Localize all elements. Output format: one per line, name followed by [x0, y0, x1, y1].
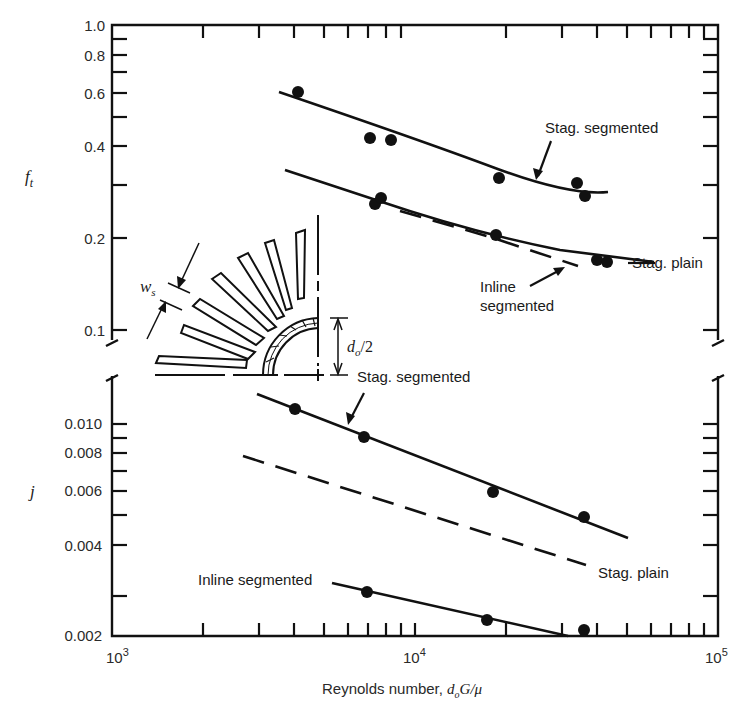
label-do-half: do/2 — [347, 338, 373, 358]
bottom-x-ticks — [203, 623, 704, 636]
label-upper-stag-segmented: Stag. segmented — [545, 119, 658, 136]
top-x-ticks — [203, 25, 704, 38]
y-tick-0.006: 0.006 — [64, 482, 102, 499]
lower-y-ticks-right — [703, 424, 718, 596]
svg-text:ft: ft — [25, 167, 34, 190]
label-lower-stag-plain: Stag. plain — [598, 564, 669, 581]
y-tick-0.6: 0.6 — [84, 85, 105, 102]
y-tick-0.2: 0.2 — [84, 230, 105, 247]
upper-y-ticks-left — [112, 39, 127, 330]
upper-panel-frame — [106, 25, 724, 346]
y-tick-0.002: 0.002 — [64, 627, 102, 644]
x-tick-1e5: 105 — [705, 646, 728, 666]
y-tick-0.004: 0.004 — [64, 537, 102, 554]
x-tick-labels: 103 104 105 — [106, 646, 728, 666]
upper-y-tick-labels: 1.0 0.8 0.6 0.4 0.2 0.1 — [84, 17, 105, 339]
upper-inline-segmented-line — [400, 211, 578, 266]
y-tick-0.4: 0.4 — [84, 138, 105, 155]
label-lower-inline-segmented: Inline segmented — [198, 571, 312, 588]
upper-annotations: Stag. segmented Stag. plain Inline segme… — [480, 119, 703, 314]
y-tick-0.010: 0.010 — [64, 415, 102, 432]
x-tick-1e3: 103 — [106, 646, 129, 666]
lower-stag-segmented-line — [257, 394, 628, 538]
segmented-fin-inset: do/2 ws — [140, 215, 373, 381]
label-ws: ws — [140, 277, 156, 298]
y-tick-0.008: 0.008 — [64, 444, 102, 461]
lower-panel-frame — [106, 375, 724, 636]
upper-stag-segmented-line — [279, 92, 608, 193]
lower-inline-segmented-points — [361, 586, 590, 636]
heat-transfer-friction-chart: 1.0 0.8 0.6 0.4 0.2 0.1 ft Stag. segment… — [0, 0, 745, 708]
lower-y-ticks-left — [112, 424, 127, 596]
x-axis-label: Reynolds number, doG/μ — [322, 680, 483, 700]
upper-y-ticks-right — [703, 39, 718, 330]
lower-y-tick-labels: 0.010 0.008 0.006 0.004 0.002 — [64, 415, 102, 644]
upper-y-axis-label: ft — [25, 167, 34, 190]
y-tick-1.0: 1.0 — [84, 17, 105, 34]
y-tick-0.8: 0.8 — [84, 47, 105, 64]
label-lower-stag-segmented: Stag. segmented — [357, 368, 470, 385]
label-upper-inline-segmented-1: Inline — [480, 278, 516, 295]
lower-stag-plain-line — [243, 456, 586, 565]
lower-y-axis-label: j — [28, 482, 35, 501]
y-tick-0.1: 0.1 — [84, 322, 105, 339]
x-tick-1e4: 104 — [403, 646, 426, 666]
lower-annotations: Stag. segmented Stag. plain Inline segme… — [198, 368, 669, 588]
label-upper-inline-segmented-2: segmented — [480, 297, 554, 314]
upper-stag-plain-line — [285, 170, 654, 262]
upper-stag-plain-points — [369, 192, 613, 268]
